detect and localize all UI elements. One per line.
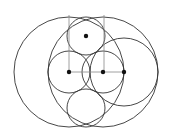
bottom-small-circle — [67, 89, 105, 127]
geometric-circles-diagram — [0, 0, 169, 140]
point-middle — [101, 70, 105, 74]
point-right — [122, 70, 126, 74]
point-top — [84, 34, 88, 38]
points-group — [67, 34, 126, 74]
point-left — [67, 70, 71, 74]
